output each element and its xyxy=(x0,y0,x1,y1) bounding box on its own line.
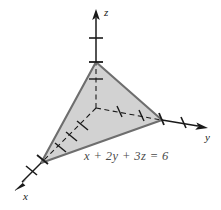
plane-equation-label: x + 2y + 3z = 6 xyxy=(83,149,169,163)
z-axis-label: z xyxy=(103,6,109,18)
x-axis-label: x xyxy=(22,190,28,202)
x-axis-line xyxy=(22,163,41,182)
y-axis-tick-1 xyxy=(181,117,186,128)
y-axis-line xyxy=(162,120,198,126)
y-axis-label: y xyxy=(204,131,210,143)
x-axis-tick-1 xyxy=(26,166,37,175)
plane-figure: z y x x + 2y + 3z = 6 xyxy=(0,0,221,210)
plane-region-fill xyxy=(41,62,162,163)
coordinate-system-diagram: z y x x + 2y + 3z = 6 xyxy=(0,0,221,210)
